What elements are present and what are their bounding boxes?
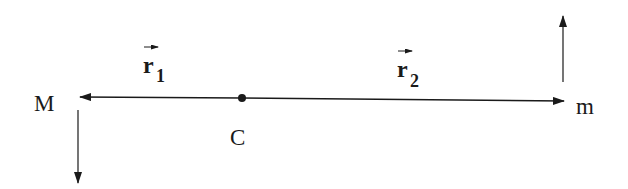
mass-label-m: m <box>576 94 594 119</box>
vector-r2-arrow <box>242 98 564 101</box>
vector-label-r2: r 2 <box>397 51 419 91</box>
vector-label-r1: r 1 <box>143 47 165 86</box>
center-label-C: C <box>230 125 245 150</box>
vector-r1-arrow <box>80 97 242 98</box>
r2-subscript: 2 <box>410 71 419 91</box>
r1-subscript: 1 <box>156 66 165 86</box>
mass-label-M: M <box>34 91 54 116</box>
two-body-diagram: M m C r 1 r 2 <box>0 0 628 189</box>
center-of-mass-dot <box>238 94 246 102</box>
r1-base: r <box>143 52 154 78</box>
r2-base: r <box>397 56 408 82</box>
